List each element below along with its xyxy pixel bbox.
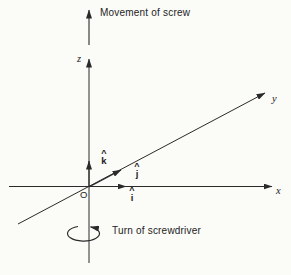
turn-of-screwdriver-label: Turn of screwdriver	[112, 225, 201, 236]
i-hat-label: ^ i	[127, 188, 137, 202]
j-hat-label: ^ j	[132, 164, 142, 178]
j-hat-letter: j	[136, 169, 139, 178]
movement-of-screw-label: Movement of screw	[100, 7, 190, 18]
screw-rule-diagram: Movement of screw Turn of screwdriver z …	[0, 0, 291, 275]
turn-rotation-arrow	[67, 227, 99, 242]
y-axis-label: y	[272, 94, 277, 104]
x-axis-label: x	[276, 186, 281, 196]
z-axis-label: z	[77, 54, 81, 64]
k-hat-letter: k	[101, 156, 106, 165]
k-hat-label: ^ k	[99, 151, 109, 165]
j-unit-vector-arrow	[89, 170, 121, 187]
y-axis	[18, 93, 265, 224]
i-hat-letter: i	[131, 193, 134, 202]
origin-label: O	[80, 190, 87, 200]
